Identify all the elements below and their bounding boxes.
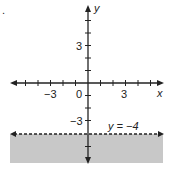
coordinate-plane: . y x 3 −3 0 3 −3 y = −4 <box>0 0 171 172</box>
y-tick-label-neg3: −3 <box>70 115 83 127</box>
x-tick-label-3: 3 <box>121 88 127 100</box>
graph-figure: . y x 3 −3 0 3 −3 y = −4 <box>0 0 171 172</box>
corner-dot: . <box>2 4 5 16</box>
x-axis-label: x <box>156 87 163 99</box>
y-tick-label-3: 3 <box>76 40 82 52</box>
y-axis-up-arrow-icon <box>85 5 91 12</box>
x-axis-right-arrow-icon <box>157 80 164 86</box>
x-axis-left-arrow-icon <box>10 80 17 86</box>
y-axis-label: y <box>93 2 101 14</box>
x-tick-label-neg3: −3 <box>44 88 57 100</box>
origin-label: 0 <box>76 88 82 100</box>
line-equation-label: y = −4 <box>107 120 139 132</box>
